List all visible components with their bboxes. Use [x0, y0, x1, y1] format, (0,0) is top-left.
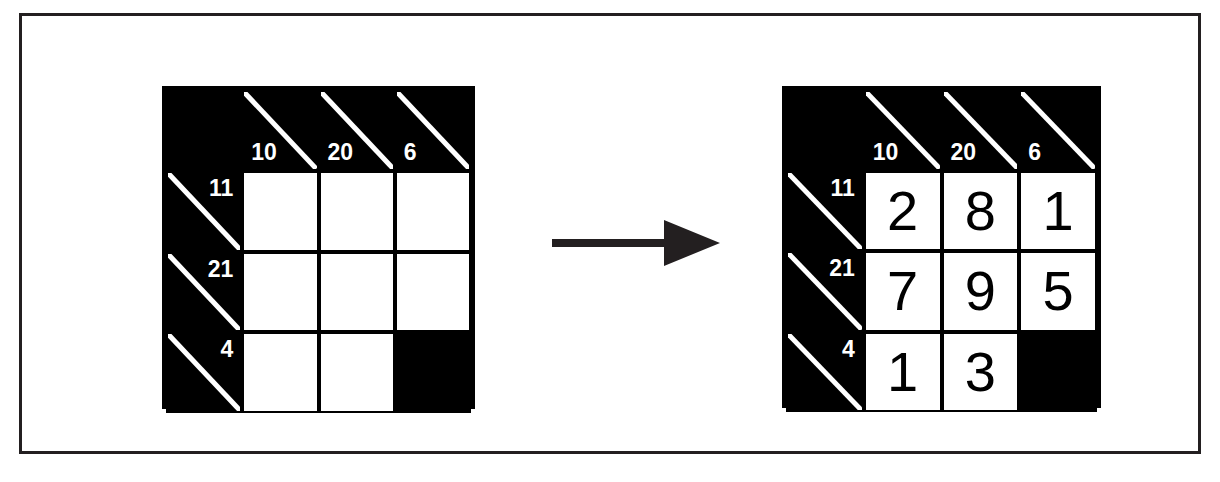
arrow-icon — [544, 212, 724, 274]
kakuro-entry-cell[interactable] — [242, 171, 318, 252]
kakuro-entry-cell[interactable]: 5 — [1019, 251, 1097, 332]
cell-value: 1 — [1043, 183, 1074, 239]
kakuro-row: 21 — [166, 252, 471, 333]
kakuro-row: 4 — [166, 332, 471, 413]
kakuro-entry-cell[interactable]: 1 — [1019, 171, 1097, 252]
kakuro-entry-cell[interactable]: 7 — [864, 251, 942, 332]
kakuro-clue-cell: 4 — [166, 332, 242, 413]
figure-canvas: 1020611214 102061128121795413 — [0, 0, 1220, 482]
kakuro-entry-cell[interactable]: 8 — [942, 171, 1020, 252]
kakuro-clue-cell: 21 — [786, 251, 864, 332]
kakuro-entry-cell[interactable] — [242, 332, 318, 413]
clue-down-number: 6 — [1028, 141, 1041, 164]
clue-down-number: 6 — [404, 141, 417, 164]
kakuro-entry-cell[interactable]: 1 — [864, 332, 942, 413]
kakuro-clue-cell: 11 — [786, 171, 864, 252]
kakuro-row: 11 — [166, 171, 471, 252]
kakuro-entry-cell[interactable] — [319, 252, 395, 333]
kakuro-entry-cell[interactable] — [242, 252, 318, 333]
kakuro-entry-cell[interactable] — [395, 171, 471, 252]
kakuro-blocked-cell — [166, 90, 242, 171]
clue-down-number: 20 — [951, 141, 977, 164]
kakuro-row: 11281 — [786, 171, 1097, 252]
kakuro-entry-cell[interactable] — [319, 171, 395, 252]
kakuro-grid-solution: 102061128121795413 — [782, 86, 1101, 408]
kakuro-row: 10206 — [786, 90, 1097, 171]
clue-across-number: 4 — [842, 338, 855, 361]
kakuro-grid-puzzle: 1020611214 — [162, 86, 475, 409]
kakuro-clue-cell: 10 — [864, 90, 942, 171]
kakuro-blocked-cell — [786, 90, 864, 171]
clue-down-number: 20 — [328, 141, 354, 164]
clue-across-number: 4 — [220, 338, 233, 361]
kakuro-clue-cell: 6 — [1019, 90, 1097, 171]
kakuro-row: 21795 — [786, 251, 1097, 332]
kakuro-clue-cell: 21 — [166, 252, 242, 333]
cell-value: 2 — [887, 183, 918, 239]
clue-down-number: 10 — [873, 141, 899, 164]
cell-value: 7 — [887, 263, 918, 319]
clue-across-number: 21 — [829, 257, 855, 280]
kakuro-row: 413 — [786, 332, 1097, 413]
cell-value: 9 — [965, 263, 996, 319]
kakuro-clue-cell: 20 — [942, 90, 1020, 171]
cell-value: 8 — [965, 183, 996, 239]
clue-down-number: 10 — [251, 141, 277, 164]
kakuro-blocked-cell — [1019, 332, 1097, 413]
kakuro-entry-cell[interactable]: 9 — [942, 251, 1020, 332]
cell-value: 1 — [887, 344, 918, 400]
cell-value: 5 — [1043, 263, 1074, 319]
kakuro-clue-cell: 6 — [395, 90, 471, 171]
kakuro-clue-cell: 10 — [242, 90, 318, 171]
cell-value: 3 — [965, 344, 996, 400]
kakuro-clue-cell: 4 — [786, 332, 864, 413]
kakuro-blocked-cell — [395, 332, 471, 413]
kakuro-clue-cell: 20 — [319, 90, 395, 171]
kakuro-clue-cell: 11 — [166, 171, 242, 252]
kakuro-entry-cell[interactable] — [395, 252, 471, 333]
kakuro-entry-cell[interactable] — [319, 332, 395, 413]
kakuro-entry-cell[interactable]: 2 — [864, 171, 942, 252]
kakuro-entry-cell[interactable]: 3 — [942, 332, 1020, 413]
figure-border: 1020611214 102061128121795413 — [19, 13, 1201, 454]
clue-across-number: 11 — [209, 177, 233, 200]
kakuro-row: 10206 — [166, 90, 471, 171]
clue-across-number: 21 — [208, 258, 234, 281]
clue-across-number: 11 — [830, 177, 854, 200]
